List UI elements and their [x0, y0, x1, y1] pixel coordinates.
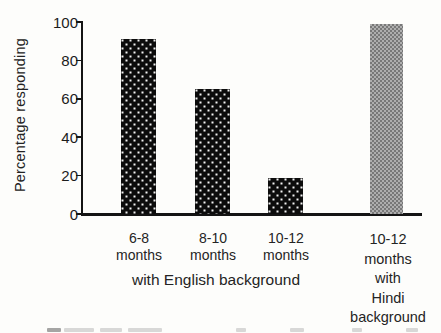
x-tick-label-line: months: [190, 247, 236, 264]
y-tick-label-40: 40: [44, 130, 78, 145]
y-tick-label-0: 0: [44, 207, 78, 222]
bar-10-12-months-with-hindi-background: [370, 24, 403, 214]
bar-chart-figure: Percentage responding 020406080100 6-8mo…: [0, 0, 441, 333]
x-tick-label-line: background: [350, 308, 426, 328]
x-tick-label-line: months: [116, 247, 162, 264]
x-axis-group-label-english: with English background: [132, 271, 300, 289]
x-tick-label-line: with: [350, 269, 426, 289]
x-tick-label-line: 6-8: [116, 230, 162, 247]
y-axis-line: [81, 21, 83, 215]
x-tick-label-line: months: [263, 247, 309, 264]
y-tick-label-80: 80: [44, 53, 78, 68]
x-tick-label-line: months: [350, 250, 426, 270]
bar-8-10-months: [195, 89, 230, 214]
y-tick-label-60: 60: [44, 91, 78, 106]
cut-off-caption-fragment: [0, 328, 441, 333]
x-tick-label-line: 10-12: [350, 230, 426, 250]
x-tick-label-line: 10-12: [263, 230, 309, 247]
bar-6-8-months: [121, 39, 156, 214]
x-tick-label-line: 8-10: [190, 230, 236, 247]
bar-10-12-months: [268, 178, 303, 214]
x-tick-label-10-12-months-with-hindi-background: 10-12monthswithHindibackground: [350, 230, 426, 328]
x-tick-label-10-12-months: 10-12months: [263, 230, 309, 264]
x-tick-label-8-10-months: 8-10months: [190, 230, 236, 264]
y-tick-label-100: 100: [44, 15, 78, 30]
y-axis-title: Percentage responding: [12, 30, 34, 200]
x-tick-label-6-8-months: 6-8months: [116, 230, 162, 264]
y-tick-label-20: 20: [44, 168, 78, 183]
x-tick-label-line: Hindi: [350, 289, 426, 309]
